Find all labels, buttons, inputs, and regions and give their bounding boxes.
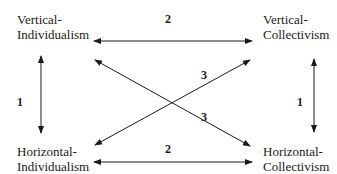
- node-vertical-individualism: Vertical- Individualism: [17, 12, 89, 42]
- node-horizontal-collectivism: Horizontal- Collectivism: [263, 144, 329, 174]
- label-top-horizontal: 2: [165, 13, 171, 25]
- node-line-2: Collectivism: [263, 159, 329, 174]
- node-line-1: Vertical-: [263, 12, 329, 27]
- node-line-2: Collectivism: [263, 27, 329, 42]
- node-line-1: Vertical-: [17, 12, 89, 27]
- node-line-1: Horizontal-: [17, 144, 89, 159]
- node-vertical-collectivism: Vertical- Collectivism: [263, 12, 329, 42]
- label-right-vertical: 1: [297, 96, 303, 108]
- label-diagonal-up: 3: [201, 69, 207, 81]
- node-line-2: Individualism: [17, 159, 89, 174]
- node-line-2: Individualism: [17, 27, 89, 42]
- node-line-1: Horizontal-: [263, 144, 329, 159]
- label-bottom-horizontal: 2: [165, 143, 171, 155]
- label-diagonal-down: 3: [201, 111, 207, 123]
- node-horizontal-individualism: Horizontal- Individualism: [17, 144, 89, 174]
- label-left-vertical: 1: [17, 96, 23, 108]
